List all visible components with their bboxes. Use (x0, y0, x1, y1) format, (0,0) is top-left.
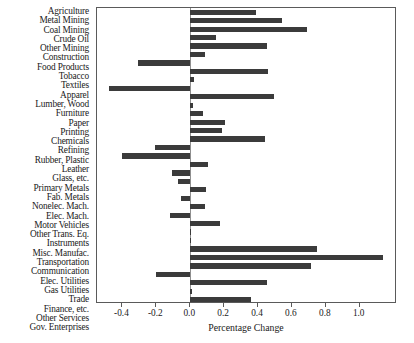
bar (190, 187, 206, 192)
bar-row (97, 43, 395, 48)
x-tick-label: -0.4 (114, 308, 129, 318)
bar-row (97, 69, 395, 74)
bar-row (97, 229, 395, 234)
bar-row (97, 272, 395, 277)
x-tick-mark (155, 303, 156, 307)
bar-row (97, 263, 395, 268)
bar (190, 35, 215, 40)
plot-area (96, 7, 396, 303)
x-tick-label: 0.4 (251, 308, 263, 318)
bar-row (97, 120, 395, 125)
category-axis-labels: AgricultureMetal MiningCoal MiningCrude … (0, 7, 92, 303)
bar (190, 229, 191, 234)
bar-row (97, 179, 395, 184)
bar-row (97, 60, 395, 65)
bar (190, 204, 204, 209)
x-tick-label: 0.0 (183, 308, 195, 318)
bar-row (97, 196, 395, 201)
bar-row (97, 246, 395, 251)
x-tick-label: 0.2 (217, 308, 229, 318)
bar-row (97, 18, 395, 23)
bar (190, 69, 268, 74)
bar (190, 136, 265, 141)
bar (190, 162, 208, 167)
bar (109, 86, 190, 91)
x-tick-label: 1.0 (353, 308, 365, 318)
bar-row (97, 162, 395, 167)
x-tick-label: 0.6 (285, 308, 297, 318)
bar (190, 297, 251, 302)
x-tick-label: 0.8 (319, 308, 331, 318)
bar (156, 272, 190, 277)
bar-row (97, 136, 395, 141)
bar (181, 196, 190, 201)
bar-row (97, 255, 395, 260)
x-axis-title: Percentage Change (96, 322, 396, 333)
bar (190, 280, 267, 285)
bar (190, 10, 256, 15)
bar-row (97, 238, 395, 243)
x-tick-mark (121, 303, 122, 307)
bar-row (97, 86, 395, 91)
bar (190, 289, 192, 294)
bar (190, 111, 203, 116)
bar (155, 145, 191, 150)
bars-layer (97, 8, 395, 302)
bar-row (97, 280, 395, 285)
x-tick-mark (325, 303, 326, 307)
bar-row (97, 289, 395, 294)
bar (122, 153, 190, 158)
bar (190, 18, 282, 23)
bar-row (97, 170, 395, 175)
x-tick-mark (189, 303, 190, 307)
bar (190, 103, 193, 108)
bar-row (97, 103, 395, 108)
bar (190, 246, 317, 251)
bar (190, 43, 267, 48)
bar (190, 52, 204, 57)
bar (190, 221, 220, 226)
bar-row (97, 187, 395, 192)
bar-row (97, 27, 395, 32)
bar-row (97, 213, 395, 218)
bar-row (97, 153, 395, 158)
bar-row (97, 10, 395, 15)
bar-row (97, 111, 395, 116)
bar (190, 27, 307, 32)
bar (190, 238, 191, 243)
bar (190, 120, 225, 125)
x-tick-mark (291, 303, 292, 307)
x-tick-mark (223, 303, 224, 307)
percentage-change-bar-chart: AgricultureMetal MiningCoal MiningCrude … (0, 0, 414, 343)
bar-row (97, 35, 395, 40)
bar-row (97, 297, 395, 302)
category-label: Gov. Enterprises (30, 323, 92, 332)
bar (170, 213, 190, 218)
bar-row (97, 145, 395, 150)
x-tick-mark (359, 303, 360, 307)
bar (172, 170, 191, 175)
bar-row (97, 221, 395, 226)
bar (178, 179, 190, 184)
bar-row (97, 94, 395, 99)
bar (190, 94, 274, 99)
x-tick-mark (257, 303, 258, 307)
bar-row (97, 204, 395, 209)
x-tick-label: -0.2 (148, 308, 163, 318)
bar (190, 255, 383, 260)
bar (138, 60, 191, 65)
bar-row (97, 77, 395, 82)
bar-row (97, 52, 395, 57)
bar-row (97, 128, 395, 133)
bar (190, 263, 311, 268)
bar (190, 77, 193, 82)
bar (190, 128, 222, 133)
